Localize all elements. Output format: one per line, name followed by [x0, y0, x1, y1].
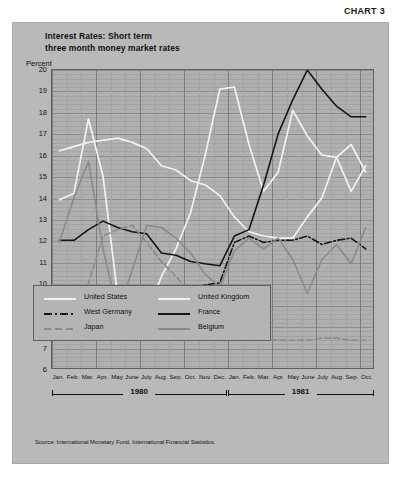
series-line-france [59, 70, 365, 266]
x-axis-tick-label: Oct. [361, 373, 372, 380]
legend-label: West Germany [84, 307, 132, 316]
y-axis-tick-label: 19 [39, 86, 47, 95]
y-axis-tick-label: 7 [43, 343, 47, 352]
legend-label: United Kingdom [198, 292, 249, 301]
year-label: 1981 [292, 387, 310, 396]
x-axis-tick-label: Feb. [67, 373, 79, 380]
legend-label: Belgium [198, 322, 224, 331]
x-axis-tick-label: Oct. [185, 373, 196, 380]
y-axis-tick-label: 16 [39, 150, 47, 159]
chart-title-line1: Interest Rates: Short term [45, 31, 180, 43]
x-axis-tick-label: Sep. [346, 373, 359, 380]
x-axis-tick-label: Mar. [258, 373, 270, 380]
legend-swatch-solid-white [44, 298, 76, 300]
y-axis-tick-label: 17 [39, 129, 47, 138]
x-axis-tick-label: Mar. [82, 373, 94, 380]
x-axis-tick-label: Sep. [169, 373, 182, 380]
year-rule-left [228, 394, 284, 395]
chart-figure: Interest Rates: Short term three month m… [12, 22, 389, 464]
x-axis-tick-label: Feb. [243, 373, 255, 380]
legend-swatch-dashdot-black [44, 313, 76, 315]
year-label: 1980 [130, 387, 148, 396]
x-axis-tick-label: Aug. [331, 373, 344, 380]
chart-title: Interest Rates: Short term three month m… [45, 31, 180, 54]
legend-swatch-solid-gray [158, 328, 190, 330]
x-axis-tick-label: July [317, 373, 328, 380]
x-axis-tick-label: Dec. [213, 373, 226, 380]
x-axis-tick-label: Nov. [199, 373, 211, 380]
legend-label: Japan [84, 322, 104, 331]
x-axis-tick-label: June [125, 373, 138, 380]
x-axis-tick-label: June [301, 373, 314, 380]
x-axis-tick-label: May [287, 373, 299, 380]
x-axis-tick-label: Jan. [52, 373, 64, 380]
x-axis-tick-label: Jan. [229, 373, 241, 380]
legend-label: United States [84, 292, 127, 301]
x-axis-tick-label: Aug. [155, 373, 168, 380]
chart-title-line2: three month money market rates [45, 43, 180, 55]
year-rule-cap [228, 390, 229, 396]
y-axis-tick-label: 12 [39, 236, 47, 245]
source-note: Source: International Monetary Fund, Int… [35, 439, 215, 445]
legend-swatch-dashed-gray [44, 328, 76, 330]
x-axis-tick-label: Apr. [273, 373, 284, 380]
legend-label: France [198, 307, 220, 316]
year-rule-right [317, 394, 373, 395]
year-rule-left [52, 394, 123, 395]
y-axis-tick-label: 6 [43, 365, 47, 374]
y-axis-tick-label: 20 [39, 65, 47, 74]
y-axis-tick-label: 15 [39, 172, 47, 181]
year-rule-cap [226, 390, 227, 396]
x-axis-tick-label: July [141, 373, 152, 380]
y-axis-tick-label: 13 [39, 215, 47, 224]
y-axis-tick-label: 14 [39, 193, 47, 202]
year-rule-cap [52, 390, 53, 396]
year-rule-right [155, 394, 226, 395]
x-axis-ticks: Jan.Feb.Mar.Apr.MayJuneJulyAug.Sep.Oct.N… [51, 373, 374, 387]
x-axis-tick-label: Apr. [97, 373, 108, 380]
chart-number-label: CHART 3 [344, 6, 385, 16]
y-axis-tick-label: 11 [39, 257, 47, 266]
x-axis-tick-label: May [111, 373, 123, 380]
chart-legend: United StatesUnited KingdomWest GermanyF… [33, 285, 271, 341]
legend-swatch-solid-white [158, 298, 190, 300]
x-axis-year-band: 19801981 [51, 387, 374, 403]
legend-swatch-solid-black [158, 313, 190, 315]
y-axis-tick-label: 18 [39, 107, 47, 116]
year-rule-cap [373, 390, 374, 396]
